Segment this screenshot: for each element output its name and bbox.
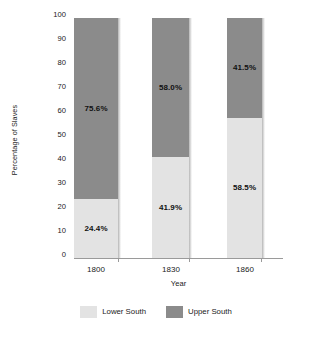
- y-axis-tick-label: 10: [58, 226, 66, 235]
- bar-shadow: [262, 18, 265, 258]
- x-axis-tick: [189, 258, 190, 262]
- y-axis-tick-label: 50: [58, 130, 66, 139]
- chart-legend: Lower South Upper South: [0, 306, 312, 318]
- bar-stack: 41.5% 58.5%: [227, 18, 262, 258]
- y-axis-tick-label: 90: [58, 34, 66, 43]
- bar-segment-upper-south[interactable]: 58.0%: [152, 18, 189, 157]
- legend-label: Upper South: [188, 307, 232, 317]
- x-axis-label-1800: 1800: [66, 265, 126, 275]
- y-axis-tick-label: 40: [58, 154, 66, 163]
- bar-shadow: [118, 18, 121, 258]
- stacked-bar-chart: Percentage of Slaves 0 10 20 30 40 50 60…: [0, 0, 312, 340]
- legend-swatch-icon: [80, 306, 97, 318]
- y-axis-tick-label: 70: [58, 82, 66, 91]
- x-axis-tick: [118, 258, 119, 262]
- x-axis-label-1860: 1860: [215, 265, 275, 275]
- bar-group-1830[interactable]: 58.0% 41.9%: [152, 18, 189, 258]
- legend-item-upper-south[interactable]: Upper South: [166, 306, 232, 318]
- legend-item-lower-south[interactable]: Lower South: [80, 306, 146, 318]
- bar-stack: 58.0% 41.9%: [152, 18, 189, 258]
- legend-swatch-icon: [166, 306, 183, 318]
- y-axis-tick-label: 20: [58, 202, 66, 211]
- bar-segment-label: 58.0%: [159, 83, 182, 92]
- bar-segment-label: 58.5%: [233, 183, 256, 192]
- bar-segment-label: 24.4%: [84, 224, 107, 233]
- bar-segment-lower-south[interactable]: 58.5%: [227, 118, 262, 258]
- x-axis-title: Year: [74, 279, 283, 289]
- y-axis-title: Percentage of Slaves: [8, 10, 22, 270]
- y-axis-tick-label: 0: [62, 250, 66, 259]
- bar-segment-label: 41.5%: [233, 63, 256, 72]
- y-axis-tick-label: 100: [53, 10, 66, 19]
- x-axis-tick: [261, 258, 262, 262]
- bar-segment-upper-south[interactable]: 75.6%: [74, 18, 118, 199]
- x-axis-label-1830: 1830: [141, 265, 201, 275]
- legend-label: Lower South: [102, 307, 146, 317]
- bar-segment-upper-south[interactable]: 41.5%: [227, 18, 262, 118]
- y-axis-tick-label: 60: [58, 106, 66, 115]
- bar-group-1800[interactable]: 75.6% 24.4%: [74, 18, 118, 258]
- bar-stack: 75.6% 24.4%: [74, 18, 118, 258]
- bar-segment-label: 75.6%: [84, 104, 107, 113]
- bar-segment-lower-south[interactable]: 24.4%: [74, 199, 118, 258]
- plot-area: 75.6% 24.4% 58.0% 41.9%: [74, 18, 283, 258]
- y-axis-tick-label: 30: [58, 178, 66, 187]
- y-axis-tick-label: 80: [58, 58, 66, 67]
- bar-group-1860[interactable]: 41.5% 58.5%: [227, 18, 262, 258]
- bar-shadow: [189, 18, 192, 258]
- bar-segment-label: 41.9%: [159, 203, 182, 212]
- bar-segment-lower-south[interactable]: 41.9%: [152, 157, 189, 258]
- x-axis-line: [74, 258, 283, 259]
- y-axis-tick-labels: 0 10 20 30 40 50 60 70 80 90 100: [26, 14, 70, 266]
